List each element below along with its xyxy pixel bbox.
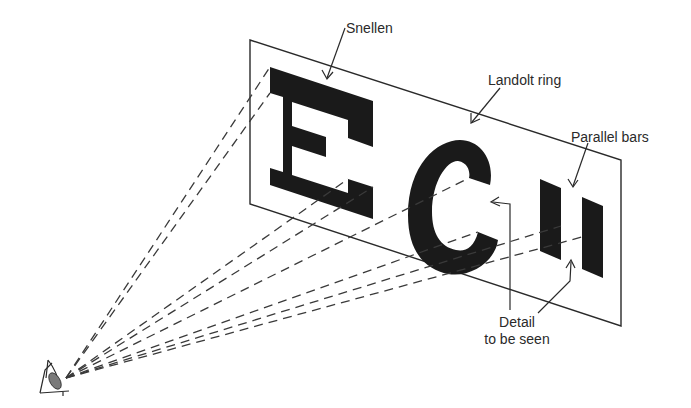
detail-label-line1: Detail (486, 314, 548, 330)
acuity-diagram: Snellen Landolt ring Parallel bars Detai… (0, 0, 691, 408)
landolt-ring-label: Landolt ring (488, 72, 561, 88)
detail-label-line2: to be seen (466, 331, 568, 347)
parallel-bars-label: Parallel bars (571, 129, 649, 145)
diagram-canvas (0, 0, 691, 408)
snellen-label: Snellen (346, 20, 393, 36)
eye-icon (40, 360, 69, 396)
